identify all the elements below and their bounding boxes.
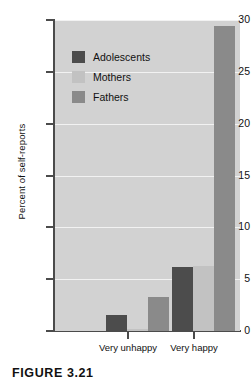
legend-item: Mothers [72,68,150,86]
legend-swatch-mothers [72,71,85,83]
y-tick-label: 20 [206,117,250,129]
y-tick-mark [46,123,53,125]
legend-item: Fathers [72,88,150,106]
legend-label-fathers: Fathers [93,91,129,103]
bar [106,315,127,331]
y-tick-label: 0 [206,324,250,336]
y-tick-label: 30 [206,13,250,25]
y-tick-label: 15 [206,169,250,181]
x-tick-label: Very happy [148,342,240,353]
x-tick-mark [193,332,195,339]
y-tick-mark [46,226,53,228]
y-tick-mark [46,19,53,21]
y-tick-label: 10 [206,220,250,232]
bar [148,297,169,331]
chart-legend: Adolescents Mothers Fathers [72,48,150,108]
y-tick-mark [46,278,53,280]
legend-swatch-fathers [72,91,85,103]
y-axis-title: Percent of self-reports [16,82,27,262]
figure-caption: FIGURE 3.21 [12,366,94,380]
y-tick-label: 5 [206,272,250,284]
y-tick-label: 25 [206,65,250,77]
bar [127,329,148,331]
y-tick-mark [46,71,53,73]
legend-label-adolescents: Adolescents [93,51,150,63]
legend-swatch-adolescents [72,51,85,63]
bar [172,267,193,331]
y-tick-mark [46,330,53,332]
legend-item: Adolescents [72,48,150,66]
legend-label-mothers: Mothers [93,71,131,83]
x-tick-mark [127,332,129,339]
y-tick-mark [46,175,53,177]
